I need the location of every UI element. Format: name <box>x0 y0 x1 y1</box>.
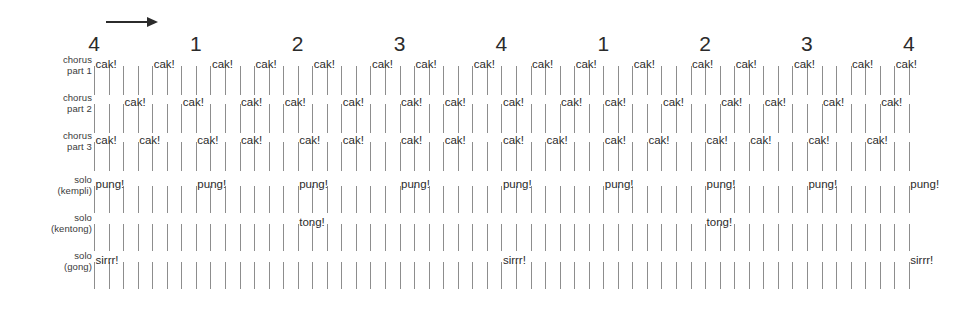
grid-tick <box>691 142 692 171</box>
grid-tick <box>560 66 561 95</box>
grid-tick <box>603 186 604 213</box>
row-label-line2: part 2 <box>0 104 92 115</box>
syllable-chorus-part-2: cak! <box>721 96 742 108</box>
syllable-chorus-part-1: cak! <box>314 58 335 70</box>
grid-tick <box>807 142 808 171</box>
grid-tick <box>647 104 648 133</box>
syllable-chorus-part-3: cak! <box>343 134 364 146</box>
syllable-chorus-part-2: cak! <box>823 96 844 108</box>
grid-tick <box>545 224 546 251</box>
syllable-chorus-part-2: cak! <box>285 96 306 108</box>
grid-tick <box>181 224 182 251</box>
grid-tick <box>909 224 910 251</box>
grid-tick <box>516 224 517 251</box>
grid-tick <box>210 142 211 171</box>
syllable-solo-kempli: pung! <box>197 178 226 190</box>
grid-tick <box>283 104 284 133</box>
grid-tick <box>210 66 211 95</box>
grid-tick <box>254 142 255 171</box>
grid-tick <box>516 142 517 171</box>
grid-tick <box>443 104 444 133</box>
grid-tick <box>385 224 386 251</box>
grid-tick <box>603 66 604 95</box>
grid-tick <box>109 262 110 289</box>
grid-tick <box>327 186 328 213</box>
grid-tick <box>298 186 299 213</box>
grid-tick <box>385 104 386 133</box>
grid-tick <box>792 262 793 289</box>
grid-tick <box>603 142 604 171</box>
grid-tick <box>487 224 488 251</box>
grid-tick <box>880 224 881 251</box>
row-label-solo-gong: solo(gong) <box>0 251 92 272</box>
syllable-chorus-part-1: cak! <box>896 58 917 70</box>
grid-tick <box>749 262 750 289</box>
grid-tick <box>516 104 517 133</box>
grid-tick <box>109 66 110 95</box>
syllable-chorus-part-3: cak! <box>241 134 262 146</box>
grid-tick <box>472 186 473 213</box>
grid-tick <box>167 104 168 133</box>
grid-tick <box>283 66 284 95</box>
grid-tick <box>370 104 371 133</box>
grid-tick <box>807 262 808 289</box>
grid-tick <box>94 142 95 171</box>
grid-tick <box>909 104 910 133</box>
grid-tick <box>705 142 706 171</box>
grid-tick <box>458 262 459 289</box>
beat-number: 4 <box>481 33 521 54</box>
grid-tick <box>298 142 299 171</box>
grid-tick <box>196 104 197 133</box>
grid-tick <box>894 142 895 171</box>
syllable-solo-gong: sirrr! <box>503 254 526 266</box>
grid-tick <box>196 66 197 95</box>
grid-tick <box>909 186 910 213</box>
row-label-line1: chorus <box>0 55 92 66</box>
grid-tick <box>123 262 124 289</box>
grid-tick <box>225 142 226 171</box>
grid-tick <box>240 186 241 213</box>
grid-tick <box>400 224 401 251</box>
grid-tick <box>458 104 459 133</box>
grid-tick <box>414 262 415 289</box>
row-label-line2: (kempli) <box>0 186 92 197</box>
grid-tick <box>210 104 211 133</box>
grid-tick <box>880 104 881 133</box>
grid-tick <box>560 104 561 133</box>
grid-tick <box>283 224 284 251</box>
grid-tick <box>94 104 95 133</box>
grid-tick <box>138 262 139 289</box>
grid-tick <box>618 186 619 213</box>
grid-tick <box>269 186 270 213</box>
grid-tick <box>283 186 284 213</box>
grid-tick <box>822 186 823 213</box>
grid-tick <box>545 186 546 213</box>
grid-tick <box>691 104 692 133</box>
grid-tick <box>269 66 270 95</box>
grid-tick <box>487 66 488 95</box>
grid-tick <box>196 224 197 251</box>
grid-tick <box>298 66 299 95</box>
grid-tick <box>676 262 677 289</box>
time-axis-header <box>100 11 158 33</box>
grid-tick <box>298 104 299 133</box>
grid-tick <box>487 104 488 133</box>
grid-tick <box>312 224 313 251</box>
grid-tick <box>385 66 386 95</box>
grid-tick <box>560 186 561 213</box>
grid-tick <box>109 142 110 171</box>
grid-tick <box>225 104 226 133</box>
grid-tick <box>196 186 197 213</box>
grid-tick <box>123 142 124 171</box>
grid-tick <box>822 104 823 133</box>
syllable-chorus-part-3: cak! <box>605 134 626 146</box>
grid-tick <box>298 262 299 289</box>
grid-tick <box>123 66 124 95</box>
grid-tick <box>836 104 837 133</box>
grid-tick <box>894 66 895 95</box>
grid-tick <box>167 66 168 95</box>
grid-tick <box>429 104 430 133</box>
grid-tick <box>632 104 633 133</box>
grid-tick <box>487 142 488 171</box>
grid-tick <box>356 224 357 251</box>
